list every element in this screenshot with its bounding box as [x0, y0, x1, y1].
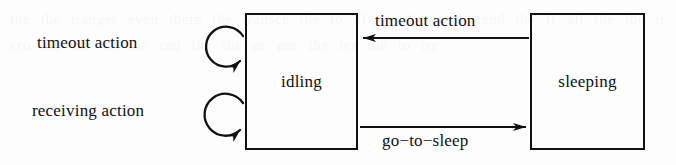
state-sleeping-label: sleeping [558, 72, 616, 92]
state-idling-label: idling [281, 72, 322, 92]
timeout-loop-label: timeout action [37, 33, 138, 53]
receiving-loop-arc [205, 94, 243, 136]
timeout-transition-label: timeout action [375, 11, 476, 31]
state-sleeping[interactable]: sleeping [530, 13, 645, 150]
state-idling[interactable]: idling [245, 13, 358, 150]
timeout-loop-arc [206, 27, 243, 67]
receiving-loop-label: receiving action [32, 101, 144, 121]
go-to-sleep-transition-label: go−to−sleep [382, 131, 469, 151]
state-diagram: the the tranger even there the transce t… [0, 0, 676, 165]
